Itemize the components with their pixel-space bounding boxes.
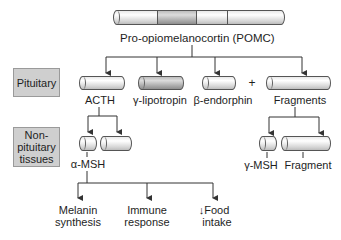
acth-cylinder (79, 76, 125, 90)
alpha-msh-label: α-MSH (70, 158, 106, 170)
fragment-label: Fragment (283, 159, 333, 171)
pituitary-box: Pituitary (13, 68, 60, 97)
alpha-msh-cylinder (79, 136, 97, 151)
pomc-segment-dark (157, 11, 196, 24)
acth-remainder-cylinder (100, 136, 132, 151)
immune-line1: Immune (124, 204, 170, 216)
gamma-lipotropin-label: γ-lipotropin (128, 94, 192, 106)
immune-response-label: Immune response (124, 204, 170, 228)
fragments-cylinder (266, 76, 331, 90)
pomc-segment-divider (196, 11, 197, 24)
gamma-lipotropin-cylinder (138, 76, 184, 90)
food-line2: intake (193, 216, 235, 228)
acth-label: ACTH (80, 94, 120, 106)
beta-endorphin-label: β-endorphin (193, 94, 253, 106)
plus-sign: + (247, 77, 257, 89)
nonpituitary-line1: Non- (25, 129, 49, 141)
pomc-label: Pro-opiomelanocortin (POMC) (120, 32, 270, 44)
melanin-line1: Melanin (55, 204, 101, 216)
gamma-msh-label: γ-MSH (243, 159, 279, 171)
food-line1: Food (204, 204, 229, 216)
food-intake-label: ↓Food intake (193, 204, 235, 228)
melanin-line2: synthesis (55, 216, 101, 228)
pomc-segment-divider (157, 11, 158, 24)
nonpituitary-line2: pituitary (17, 141, 56, 153)
nonpituitary-line3: tissues (19, 153, 53, 165)
nonpituitary-box: Non- pituitary tissues (13, 127, 60, 167)
melanin-synthesis-label: Melanin synthesis (55, 204, 101, 228)
gamma-msh-cylinder (259, 136, 277, 151)
beta-endorphin-cylinder (202, 76, 236, 90)
pomc-cylinder (113, 10, 285, 25)
fragments-label: Fragments (270, 94, 330, 106)
pomc-segment-divider (227, 11, 228, 24)
immune-line2: response (124, 216, 170, 228)
fragment-cylinder (281, 136, 331, 151)
